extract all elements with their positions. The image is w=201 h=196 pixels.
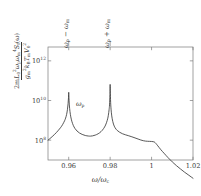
x-axis-label: ω/ωc [0, 175, 201, 184]
plot-frame [48, 47, 193, 160]
x-tick-label: 1 [149, 162, 153, 170]
annotation-upper-sideband: ωp + ωm [103, 19, 111, 48]
x-axis-tick-labels: 0.960.9811.02 [0, 162, 201, 174]
figure-root: 2mL02ωpωm4Sf(ω) gm2kBTmV02 108 1010 1012… [0, 0, 201, 196]
x-tick-label: 0.98 [103, 162, 118, 170]
annotation-lower-sideband: ωp − ωm [62, 19, 70, 48]
x-axis-ticks [69, 47, 193, 160]
y-axis-ticks [48, 61, 193, 140]
x-tick-label: 0.96 [61, 162, 76, 170]
x-tick-label: 1.02 [186, 162, 201, 170]
annotation-pump: ωp [76, 100, 84, 108]
